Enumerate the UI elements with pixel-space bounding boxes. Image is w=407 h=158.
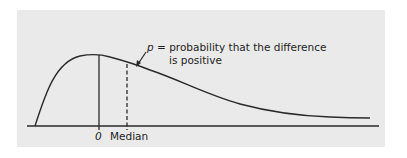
annotation-text: = probability that the difference xyxy=(157,41,326,53)
distribution-plot xyxy=(0,0,407,158)
p-symbol: p xyxy=(147,41,154,53)
annotation-line-2: is positive xyxy=(169,54,222,66)
zero-label: 0 xyxy=(95,130,102,142)
median-label: Median xyxy=(110,130,148,142)
annotation-line-1: p = probability that the difference xyxy=(147,41,326,53)
